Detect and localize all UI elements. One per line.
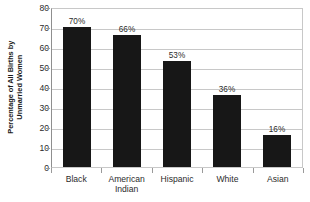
x-axis-tick-mark — [253, 168, 254, 173]
x-axis-category-label-line: Indian — [101, 184, 151, 194]
bar[interactable] — [63, 27, 91, 167]
x-axis-tick-mark — [51, 168, 52, 173]
y-axis-tick-mark — [46, 168, 50, 169]
x-axis-tick-mark — [303, 168, 304, 173]
x-axis-tick-mark — [152, 168, 153, 173]
bar-chart: Percentage of All Births by Unmarried Wo… — [0, 0, 310, 202]
y-axis-tick-mark — [46, 68, 50, 69]
bar[interactable] — [213, 95, 241, 167]
x-axis-tick-mark — [101, 168, 102, 173]
y-axis-tick-mark — [46, 28, 50, 29]
bar-slot: 16% — [252, 9, 302, 167]
bar-slot: 66% — [102, 9, 152, 167]
plot-area: 70%66%53%36%16% — [51, 8, 303, 168]
x-axis-category-label-line: American — [101, 174, 151, 184]
y-axis-tick-mark — [46, 8, 50, 9]
y-axis-title-line-2: Unmarried Women — [15, 41, 24, 134]
bar-value-label: 66% — [119, 25, 135, 34]
bar-slot: 36% — [202, 9, 252, 167]
bar[interactable] — [113, 35, 141, 167]
x-axis-category-label: Black — [51, 174, 101, 195]
bar[interactable] — [163, 61, 191, 167]
y-axis-title: Percentage of All Births by Unmarried Wo… — [0, 0, 30, 175]
x-axis-category-label-line: Hispanic — [152, 174, 202, 184]
bar-slot: 70% — [52, 9, 102, 167]
bar-value-label: 70% — [69, 17, 85, 26]
y-axis-tick-mark — [46, 88, 50, 89]
bar-value-label: 53% — [169, 51, 185, 60]
y-axis-tick-mark — [46, 48, 50, 49]
x-axis-category-label: Hispanic — [152, 174, 202, 195]
bar-slot: 53% — [152, 9, 202, 167]
y-axis-tick-mark — [46, 148, 50, 149]
bar-value-label: 36% — [219, 85, 235, 94]
x-axis-category-label: White — [202, 174, 252, 195]
bar-value-label: 16% — [269, 125, 285, 134]
bar-series: 70%66%53%36%16% — [52, 9, 302, 167]
x-axis-category-label: Asian — [253, 174, 303, 195]
x-axis-category-label-line: Asian — [253, 174, 303, 184]
x-axis-category-label: AmericanIndian — [101, 174, 151, 195]
x-axis-tick-labels: BlackAmericanIndianHispanicWhiteAsian — [51, 174, 303, 195]
y-axis-tick-mark — [46, 128, 50, 129]
x-axis-tick-mark — [202, 168, 203, 173]
x-axis-category-label-line: White — [202, 174, 252, 184]
x-axis-category-label-line: Black — [51, 174, 101, 184]
y-axis-tick-mark — [46, 108, 50, 109]
y-axis-title-line-1: Percentage of All Births by — [6, 41, 15, 134]
bar[interactable] — [263, 135, 291, 167]
